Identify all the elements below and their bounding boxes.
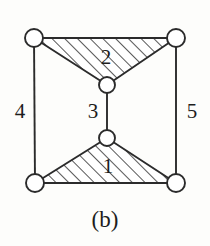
label-link-3: 3: [83, 101, 103, 122]
figure-caption: (b): [0, 207, 210, 233]
label-link-2: 2: [96, 47, 116, 68]
joint-lower-middle[interactable]: [99, 130, 115, 146]
figure-container: 2 3 4 5 1 (b): [0, 0, 210, 246]
joint-upper-middle[interactable]: [99, 77, 115, 93]
joint-top-right[interactable]: [167, 29, 185, 47]
joint-top-left[interactable]: [25, 29, 43, 47]
label-link-4: 4: [10, 101, 30, 122]
joint-bottom-left[interactable]: [26, 174, 44, 192]
label-link-1: 1: [98, 156, 118, 177]
label-link-5: 5: [182, 101, 202, 122]
link-4-binary[interactable]: [34, 38, 35, 183]
joint-bottom-right[interactable]: [167, 174, 185, 192]
